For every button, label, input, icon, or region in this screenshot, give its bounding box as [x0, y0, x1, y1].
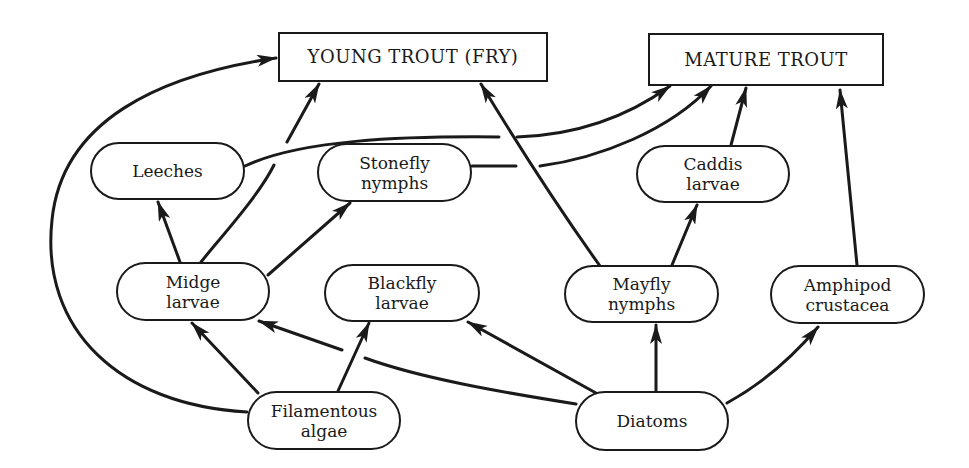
node-label: YOUNG TROUT (FRY) — [308, 47, 519, 67]
node-mature-trout: MATURE TROUT — [648, 33, 884, 86]
edge-filamentous-to-young-trout — [51, 58, 276, 412]
edge-mayfly-to-young-trout — [481, 84, 600, 266]
edge-midge-to-stonefly — [268, 203, 350, 275]
edge-filamentous-to-midge — [192, 323, 258, 393]
food-web-diagram: YOUNG TROUT (FRY) MATURE TROUT Leeches S… — [0, 0, 969, 468]
node-label: Diatoms — [616, 411, 687, 431]
node-caddis-larvae: Caddis larvae — [636, 145, 790, 203]
node-blackfly-larvae: Blackfly larvae — [324, 264, 480, 322]
node-label: Filamentous algae — [271, 401, 378, 441]
node-label: Caddis larvae — [683, 154, 742, 194]
node-filamentous-algae: Filamentous algae — [247, 391, 401, 450]
node-label: Amphipod crustacea — [804, 275, 892, 315]
node-label: Blackfly larvae — [368, 273, 437, 313]
node-label: Midge larvae — [166, 272, 221, 312]
node-young-trout: YOUNG TROUT (FRY) — [278, 32, 548, 82]
node-leeches: Leeches — [90, 142, 245, 200]
node-mayfly-nymphs: Mayfly nymphs — [564, 265, 719, 323]
node-amphipod-crustacea: Amphipod crustacea — [770, 265, 925, 324]
edge-diatoms-to-blackfly — [468, 322, 596, 393]
edge-amphipod-to-mature-trout — [840, 90, 857, 265]
node-label: Stonefly nymphs — [359, 153, 430, 193]
node-label: Leeches — [132, 161, 203, 181]
edge-midge-to-leeches — [158, 202, 180, 262]
node-stonefly-nymphs: Stonefly nymphs — [317, 143, 472, 202]
edge-mayfly-to-caddis — [672, 205, 697, 265]
node-label: MATURE TROUT — [684, 50, 848, 70]
node-midge-larvae: Midge larvae — [116, 262, 270, 321]
edge-caddis-to-mature-trout — [731, 88, 746, 145]
node-diatoms: Diatoms — [575, 391, 729, 451]
edge-diatoms-to-amphipod — [727, 327, 818, 403]
node-label: Mayfly nymphs — [608, 274, 675, 314]
